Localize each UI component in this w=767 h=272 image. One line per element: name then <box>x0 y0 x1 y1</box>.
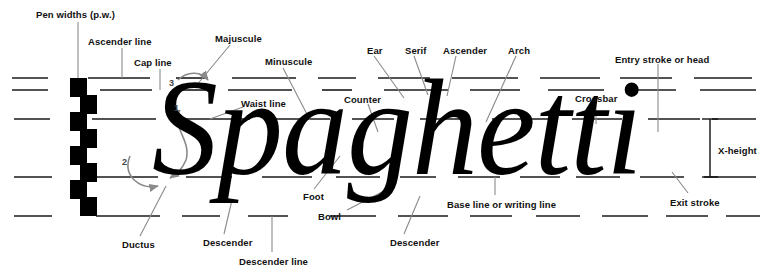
label-majuscule: Majuscule <box>215 34 262 44</box>
label-waist-line: Waist line <box>241 99 286 109</box>
calligraphy-anatomy-diagram: Spaghetti Pen widths (p.w.) Ascender lin… <box>0 0 767 272</box>
label-bowl: Bowl <box>318 212 341 222</box>
ductus-number-2: 2 <box>122 158 127 167</box>
pen-width-ladder <box>70 78 97 216</box>
label-crossbar: Crossbar <box>575 94 618 104</box>
label-ear: Ear <box>367 46 383 56</box>
label-entry-stroke: Entry stroke or head <box>615 55 709 65</box>
leader-descender-left <box>224 200 232 234</box>
label-serif: Serif <box>405 46 427 56</box>
label-pen-widths: Pen widths (p.w.) <box>36 10 115 20</box>
label-foot: Foot <box>303 192 324 202</box>
label-descender-line: Descender line <box>239 257 308 267</box>
sample-word: Spaghetti <box>152 60 642 197</box>
label-cap-line: Cap line <box>134 58 172 68</box>
label-base-line: Base line or writing line <box>447 200 556 210</box>
label-descender-left: Descender <box>203 238 252 248</box>
label-x-height: X-height <box>718 146 757 156</box>
label-counter: Counter <box>344 95 381 105</box>
label-ascender: Ascender <box>443 46 487 56</box>
label-arch: Arch <box>508 46 530 56</box>
ductus-number-3: 3 <box>169 79 174 88</box>
label-exit-stroke: Exit stroke <box>670 198 720 208</box>
label-descender-right: Descender <box>390 238 439 248</box>
ductus-number-1: 1 <box>174 104 179 113</box>
leader-exit-stroke <box>672 172 688 193</box>
label-ductus: Ductus <box>122 240 155 250</box>
label-minuscule: Minuscule <box>265 57 312 67</box>
label-ascender-line: Ascender line <box>88 37 152 47</box>
x-height-bracket <box>702 119 718 177</box>
